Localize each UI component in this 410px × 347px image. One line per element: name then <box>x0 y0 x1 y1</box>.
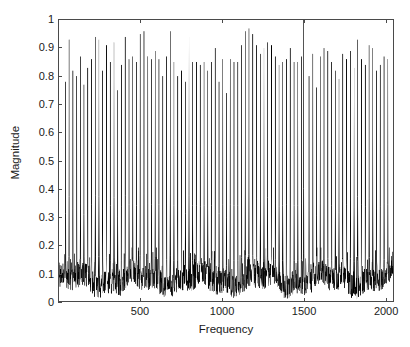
y-axis-title: Magnitude <box>10 105 22 201</box>
x-tick-mark <box>140 298 141 302</box>
x-axis-tick-labels: 500100015002000 <box>0 306 410 322</box>
x-tick-mark <box>222 298 223 302</box>
y-tick-mark <box>58 132 62 133</box>
y-tick-mark <box>58 161 62 162</box>
y-tick-mark <box>58 302 62 303</box>
x-tick-mark-top <box>222 19 223 23</box>
x-tick-label: 500 <box>131 306 149 317</box>
y-tick-label: 0.4 <box>39 183 54 194</box>
spectrum-trace <box>59 20 393 301</box>
plot-area <box>58 19 394 302</box>
y-tick-mark <box>58 104 62 105</box>
y-tick-label: 0.2 <box>39 240 54 251</box>
x-tick-mark <box>304 298 305 302</box>
y-tick-label: 0.8 <box>39 70 54 81</box>
x-tick-label: 1500 <box>292 306 316 317</box>
x-tick-mark-top <box>386 19 387 23</box>
y-tick-mark <box>58 217 62 218</box>
y-tick-label: 0.9 <box>39 42 54 53</box>
y-tick-mark <box>58 47 62 48</box>
x-axis-title: Frequency <box>58 324 394 336</box>
y-axis-tick-labels: 00.10.20.30.40.50.60.70.80.91 <box>0 0 54 347</box>
y-tick-mark <box>58 19 62 20</box>
y-tick-label: 1 <box>48 14 54 25</box>
y-tick-mark <box>58 76 62 77</box>
x-tick-label: 1000 <box>210 306 234 317</box>
x-tick-mark-top <box>140 19 141 23</box>
y-tick-mark <box>58 245 62 246</box>
y-tick-label: 0.5 <box>39 155 54 166</box>
y-tick-label: 0.1 <box>39 268 54 279</box>
y-tick-label: 0.6 <box>39 127 54 138</box>
y-tick-label: 0.3 <box>39 212 54 223</box>
y-tick-mark <box>58 274 62 275</box>
x-tick-mark-top <box>304 19 305 23</box>
spectrum-figure: 00.10.20.30.40.50.60.70.80.91 5001000150… <box>0 0 410 347</box>
y-tick-mark <box>58 189 62 190</box>
x-tick-label: 2000 <box>374 306 398 317</box>
x-tick-mark <box>386 298 387 302</box>
y-tick-label: 0.7 <box>39 98 54 109</box>
